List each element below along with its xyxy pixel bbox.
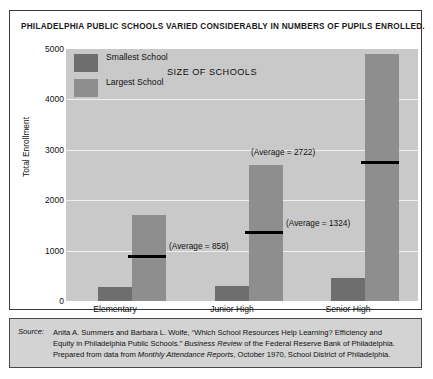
source-line-2: Equity in Philadelphia Public Schools.” …	[53, 338, 416, 349]
x-tick-junior-high: Junior High	[210, 304, 253, 314]
chart-title: PHILADELPHIA PUBLIC SCHOOLS VARIED CONSI…	[21, 22, 421, 31]
y-tick-1000: 1000	[30, 246, 64, 256]
y-tick-0: 0	[30, 296, 64, 306]
source-line-3-pre: Prepared from data from	[53, 350, 138, 359]
average-marker-elementary-line	[128, 255, 166, 258]
y-axis-title: Total Enrollment	[21, 92, 31, 202]
x-tick-senior-high: Senior High	[326, 304, 371, 314]
bar-senior-high-largest[interactable]	[365, 54, 399, 301]
legend-label-smallest-school: Smallest School	[106, 52, 176, 63]
legend-swatch-smallest-school	[74, 54, 98, 72]
source-line-3: Prepared from data from Monthly Attendan…	[53, 349, 416, 360]
average-marker-senior-high-line	[361, 161, 399, 164]
source-line-3-italic: Monthly Attendance Reports	[138, 350, 234, 359]
source-line-1-text: Anita A. Summers and Barbara L. Wolfe, “…	[53, 328, 382, 337]
source-box: Source: Anita A. Summers and Barbara L. …	[9, 318, 422, 368]
legend-label-largest-school: Largest School	[106, 77, 176, 88]
average-label-elementary: (Average = 858)	[169, 241, 229, 251]
chart-frame: PHILADELPHIA PUBLIC SCHOOLS VARIED CONSI…	[9, 10, 422, 310]
average-label-senior-high: (Average = 2722)	[251, 147, 315, 157]
legend-swatch-largest-school	[74, 79, 98, 97]
average-label-junior-high: (Average = 1324)	[286, 218, 350, 228]
average-marker-junior-high-line	[245, 231, 283, 234]
bar-elementary-largest[interactable]	[132, 215, 166, 301]
y-tick-5000: 5000	[30, 44, 64, 54]
bar-senior-high-smallest[interactable]	[331, 278, 365, 301]
source-line-3-post: , October 1970, School District of Phila…	[233, 350, 390, 359]
source-label: Source:	[18, 327, 44, 336]
legend-title: SIZE OF SCHOOLS	[167, 67, 257, 77]
x-tick-elementary: Elementary	[93, 304, 136, 314]
y-tick-2000: 2000	[30, 195, 64, 205]
figure-root: PHILADELPHIA PUBLIC SCHOOLS VARIED CONSI…	[0, 0, 433, 379]
source-line-2-pre: Equity in Philadelphia Public Schools.”	[53, 339, 184, 348]
source-line-1: Anita A. Summers and Barbara L. Wolfe, “…	[53, 327, 416, 338]
bar-junior-high-smallest[interactable]	[215, 286, 249, 301]
source-text: Anita A. Summers and Barbara L. Wolfe, “…	[53, 327, 416, 361]
bar-elementary-smallest[interactable]	[98, 287, 132, 301]
y-tick-3000: 3000	[30, 145, 64, 155]
source-line-2-italic: Business Review	[184, 339, 242, 348]
y-tick-4000: 4000	[30, 94, 64, 104]
source-line-2-post: of the Federal Reserve Bank of Philadelp…	[242, 339, 395, 348]
